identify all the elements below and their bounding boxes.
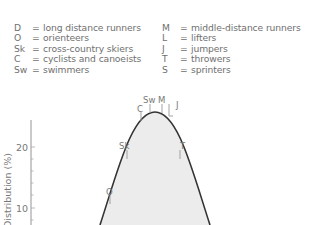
chart-plot: 20 10 Distribution (%) O Sk C Sw M L J T (0, 0, 312, 225)
y-tick-20: 20 (16, 142, 28, 153)
y-ticks (31, 147, 35, 220)
marker-sw: Sw (143, 95, 155, 105)
y-tick-10: 10 (16, 203, 28, 214)
marker-c: C (137, 104, 143, 114)
y-axis-label: Distribution (%) (2, 153, 13, 225)
marker-sk: Sk (119, 141, 129, 151)
distribution-area (100, 112, 210, 225)
marker-t: T (179, 141, 186, 151)
marker-o: O (106, 187, 113, 197)
marker-j: J (175, 100, 179, 110)
marker-m: M (158, 95, 165, 105)
